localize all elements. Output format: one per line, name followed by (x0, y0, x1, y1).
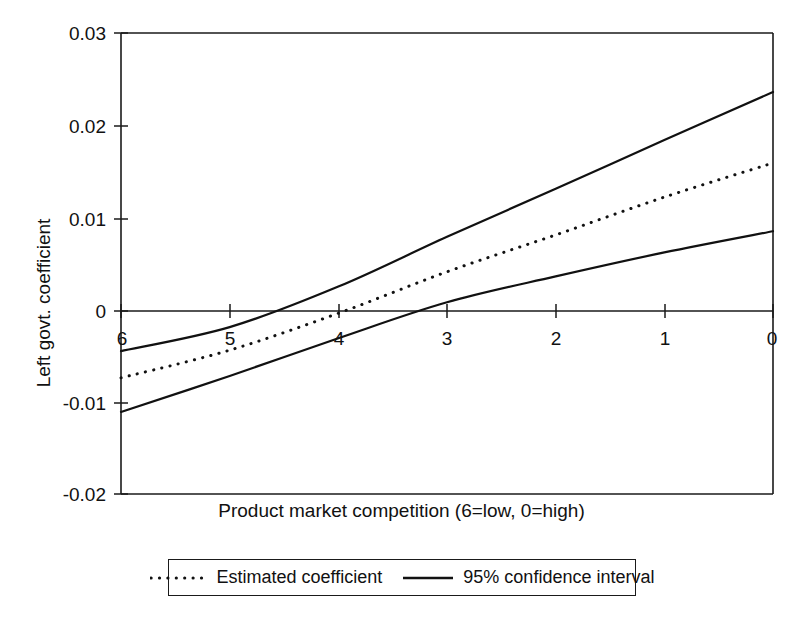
y-tick-label: 0.01 (69, 209, 106, 230)
solid-line-swatch-icon (402, 573, 454, 583)
figure-caption (0, 622, 803, 637)
confidence-interval-lower-line (121, 231, 773, 412)
chart-legend: Estimated coefficient 95% confidence int… (168, 559, 636, 596)
chart-canvas: 0.03 0.02 0.01 0 -0.01 -0.02 6 5 4 3 2 1… (0, 0, 803, 637)
x-tick-label: 2 (551, 328, 562, 349)
y-tick-label: 0.03 (69, 23, 106, 44)
legend-label: 95% confidence interval (463, 567, 654, 588)
x-axis-title: Product market competition (6=low, 0=hig… (0, 500, 803, 522)
y-tick-label: 0 (95, 301, 106, 322)
dotted-line-swatch-icon (150, 573, 208, 583)
legend-label: Estimated coefficient (217, 567, 383, 588)
y-tick-label: 0.02 (69, 116, 106, 137)
x-tick-label: 0 (767, 328, 778, 349)
figure-container: 0.03 0.02 0.01 0 -0.01 -0.02 6 5 4 3 2 1… (0, 0, 803, 637)
x-tick-label: 5 (225, 328, 236, 349)
x-tick-label: 3 (442, 328, 453, 349)
x-tick-label: 6 (117, 328, 128, 349)
y-axis-title: Left govt. coefficient (33, 173, 55, 433)
y-tick-labels: 0.03 0.02 0.01 0 -0.01 -0.02 (63, 23, 106, 505)
x-tick-label: 1 (660, 328, 671, 349)
legend-entry-estimated-coefficient: Estimated coefficient (150, 567, 383, 588)
legend-entry-confidence-interval: 95% confidence interval (402, 567, 654, 588)
y-tick-label: -0.01 (63, 393, 106, 414)
